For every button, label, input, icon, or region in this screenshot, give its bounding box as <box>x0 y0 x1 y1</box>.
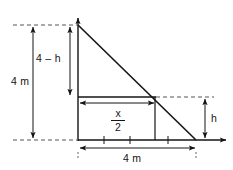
label-lower-height: h <box>211 113 217 124</box>
fraction-numerator: x <box>110 108 126 119</box>
label-upper-height: 4 – h <box>36 53 61 64</box>
triangle-hypotenuse <box>78 25 196 140</box>
label-total-width: 4 m <box>123 153 141 164</box>
fraction-denominator: 2 <box>110 122 126 133</box>
figure-canvas: 4 m 4 – h h 4 m x 2 <box>0 0 233 170</box>
label-total-height: 4 m <box>11 76 29 87</box>
triangle-diagram <box>0 0 233 170</box>
label-half-width-fraction: x 2 <box>110 108 126 133</box>
